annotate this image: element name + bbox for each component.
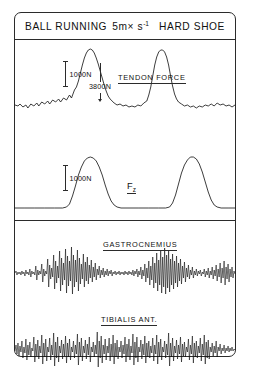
page-title: BALL RUNNING5m× s-1HARD SHOE: [25, 20, 225, 32]
scale-bar-glyph: [63, 61, 68, 87]
trace-label-fz: Fz: [127, 181, 136, 194]
peak-value-label: 3800N: [79, 83, 121, 90]
gastrocnemius-emg-trace: [15, 225, 235, 291]
title-condition: HARD SHOE: [159, 21, 225, 32]
title-speed-value: 5m: [112, 21, 127, 32]
biomechanics-figure: BALL RUNNING5m× s-1HARD SHOE: [0, 0, 254, 375]
scale-bar-fz: 1000N: [63, 165, 92, 191]
panel-divider: [15, 220, 235, 221]
fz-trace: [15, 146, 235, 218]
figure-frame: BALL RUNNING5m× s-1HARD SHOE: [14, 12, 236, 357]
trace-label-tendon-force: TENDON FORCE: [118, 74, 186, 84]
panel-tibialis: [15, 301, 235, 367]
title-activity: BALL RUNNING: [25, 21, 107, 32]
trace-label-gastrocnemius: GASTROCNEMIUS: [103, 241, 177, 251]
title-speed-unit: × s: [127, 21, 143, 32]
panel-gastrocnemius: [15, 225, 235, 291]
scale-bar-label: 1000N: [70, 174, 92, 183]
peak-arrow-head-icon: [98, 99, 102, 102]
peak-arrow-line: [100, 63, 101, 82]
trace-label-tibialis: TIBIALIS ANT.: [101, 316, 157, 326]
peak-annotation-3800n: 3800N: [79, 83, 121, 90]
title-speed-exponent: -1: [143, 20, 149, 27]
scale-bar-glyph: [63, 165, 68, 191]
figure-title-bar: BALL RUNNING5m× s-1HARD SHOE: [15, 13, 235, 40]
fz-subscript: z: [133, 186, 136, 193]
tibialis-emg-trace: [15, 301, 235, 367]
panel-fz: [15, 146, 235, 218]
scale-bar-label: 1000N: [70, 70, 92, 79]
